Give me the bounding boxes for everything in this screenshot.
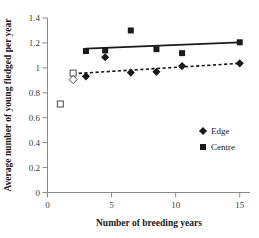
series-centre [83, 27, 243, 56]
marker-filled-diamond [127, 69, 135, 77]
legend-label: Centre [211, 142, 235, 152]
marker-filled-diamond [199, 127, 207, 135]
marker-filled-square [237, 39, 243, 45]
x-axis-title: Number of breeding years [96, 218, 202, 228]
marker-filled-diamond [178, 62, 186, 70]
y-axis-tick-labels: 00.20.40.60.811.21.4 [29, 13, 41, 198]
x-tick-label: 15 [235, 200, 245, 210]
marker-filled-diamond [82, 72, 90, 80]
marker-filled-square [128, 27, 134, 33]
marker-filled-square [83, 48, 89, 54]
marker-filled-diamond [236, 59, 244, 67]
trend-line-solid [86, 42, 240, 48]
y-tick-label: 0.2 [29, 163, 40, 173]
legend-label: Edge [211, 126, 230, 136]
x-tick-label: 0 [45, 200, 50, 210]
y-tick-label: 0.4 [29, 138, 41, 148]
y-axis-title: Average number of young fledged per year [3, 18, 13, 192]
marker-filled-square [200, 144, 206, 150]
y-tick-label: 0.8 [29, 88, 41, 98]
marker-filled-square [102, 47, 108, 53]
series-edge [82, 53, 244, 80]
y-tick-label: 1.2 [29, 38, 40, 48]
y-tick-label: 1.4 [29, 13, 41, 23]
data-points [57, 27, 243, 107]
x-tick-label: 10 [171, 200, 181, 210]
y-axis-ticks [43, 18, 48, 193]
x-axis-tick-labels: 051015 [45, 200, 244, 210]
y-axis: 00.20.40.60.811.21.4 [29, 13, 48, 198]
marker-open-diamond [69, 76, 77, 84]
chart-figure: 00.20.40.60.811.21.4 051015 EdgeCentre N… [0, 0, 259, 238]
x-tick-label: 5 [109, 200, 114, 210]
x-axis-ticks [48, 193, 240, 198]
marker-filled-diamond [101, 53, 109, 61]
marker-filled-square [179, 50, 185, 56]
chart-legend: EdgeCentre [199, 126, 235, 152]
marker-open-square [57, 101, 63, 107]
y-tick-label: 1 [36, 63, 41, 73]
marker-filled-square [153, 46, 159, 52]
series-open-diamond [69, 76, 77, 84]
x-axis: 051015 [45, 193, 250, 211]
scatter-plot: 00.20.40.60.811.21.4 051015 EdgeCentre N… [0, 0, 259, 238]
y-tick-label: 0 [36, 188, 41, 198]
y-tick-label: 0.6 [29, 113, 41, 123]
